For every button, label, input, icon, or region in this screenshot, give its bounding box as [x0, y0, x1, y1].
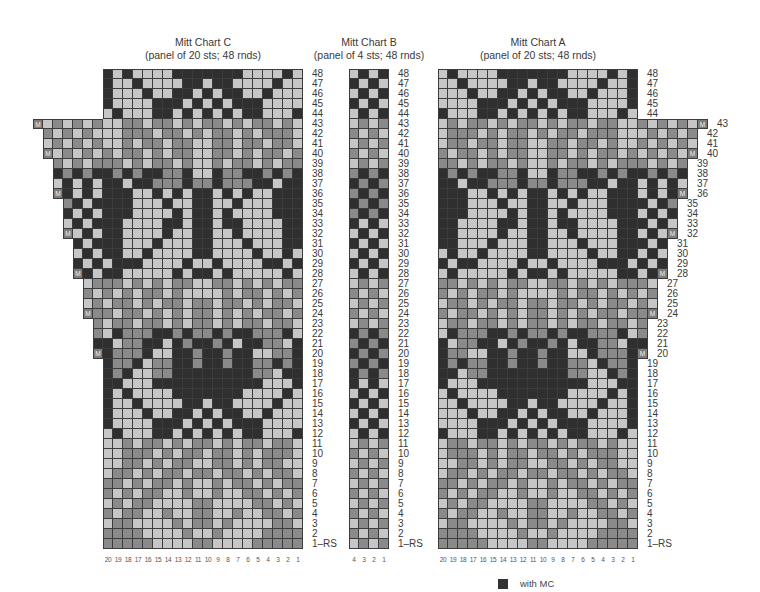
- chart-cell: [438, 399, 448, 409]
- chart-cell: [608, 169, 618, 179]
- chart-cell: [233, 229, 243, 239]
- chart-cell: [598, 129, 608, 139]
- chart-cell: [263, 349, 273, 359]
- chart-cell: [448, 289, 458, 299]
- chart-cell: [143, 69, 153, 79]
- chart-cell: [438, 159, 448, 169]
- chart-cell: [233, 109, 243, 119]
- chart-cell: [548, 359, 558, 369]
- chart-cell: [193, 249, 203, 259]
- chart-cell: [598, 329, 608, 339]
- chart-cell: [558, 189, 568, 199]
- chart-cell: [123, 149, 133, 159]
- chart-cell: [173, 499, 183, 509]
- chart-cell: [548, 279, 558, 289]
- chart-cell: [203, 79, 213, 89]
- chart-cell: [359, 179, 369, 189]
- chart-cell: [568, 419, 578, 429]
- chart-cell: [518, 69, 528, 79]
- chart-cell: [283, 409, 293, 419]
- chart-cell: [223, 489, 233, 499]
- chart-cell: [379, 169, 389, 179]
- chart-cell: [273, 339, 283, 349]
- chart-cell: [173, 119, 183, 129]
- chart-cell: [253, 249, 263, 259]
- chart-cell: [349, 99, 359, 109]
- chart-cell: [608, 489, 618, 499]
- chart-cell: [213, 269, 223, 279]
- chart-cell: [448, 99, 458, 109]
- chart-cell: [273, 379, 283, 389]
- chart-cell: [133, 449, 143, 459]
- chart-cell: [113, 419, 123, 429]
- chart-cell: [273, 529, 283, 539]
- chart-cell: [223, 119, 233, 129]
- chart-cell: [608, 499, 618, 509]
- chart-cell: [253, 459, 263, 469]
- chart-cell: [478, 229, 488, 239]
- chart-cell: [293, 259, 303, 269]
- chart-cell: [578, 229, 588, 239]
- chart-cell: [133, 149, 143, 159]
- chart-cell: [578, 519, 588, 529]
- chart-cell: [233, 269, 243, 279]
- chart-cell: [153, 239, 163, 249]
- chart-cell: [518, 229, 528, 239]
- chart-cell: [233, 389, 243, 399]
- chart-cell: [103, 109, 113, 119]
- chart-cell: [488, 529, 498, 539]
- chart-cell: [153, 289, 163, 299]
- chart-cell: [173, 459, 183, 469]
- chart-cell: [349, 69, 359, 79]
- chart-cell: [379, 309, 389, 319]
- chart-cell: [608, 399, 618, 409]
- chart-cell: [359, 269, 369, 279]
- chart-cell: [438, 379, 448, 389]
- chart-cell: [223, 209, 233, 219]
- chart-cell: [283, 469, 293, 479]
- chart-cell: [518, 179, 528, 189]
- chart-cell: [369, 129, 379, 139]
- chart-cell: [233, 119, 243, 129]
- chart-cell: [448, 319, 458, 329]
- chart-cell: [213, 389, 223, 399]
- chart-cell: [163, 439, 173, 449]
- chart-cell: [518, 189, 528, 199]
- chart-cell: [558, 69, 568, 79]
- chart-cell: [283, 199, 293, 209]
- chart-cell: [193, 289, 203, 299]
- chart-cell: [438, 229, 448, 239]
- chart-cell: [498, 109, 508, 119]
- chart-cell: [349, 159, 359, 169]
- chart-cell: [213, 489, 223, 499]
- chart-cell: [448, 109, 458, 119]
- chart-cell: [578, 309, 588, 319]
- chart-cell: [163, 429, 173, 439]
- chart-cell: [369, 189, 379, 199]
- chart-cell: [73, 139, 83, 149]
- chart-cell: [203, 489, 213, 499]
- chart-cell: [618, 149, 628, 159]
- chart-cell: [369, 519, 379, 529]
- chart-cell: [153, 479, 163, 489]
- chart-cell: [213, 79, 223, 89]
- chart-cell: [153, 179, 163, 189]
- chart-cell: [263, 279, 273, 289]
- chart-cell: [283, 279, 293, 289]
- chart-cell: [133, 499, 143, 509]
- chart-cell: [648, 239, 658, 249]
- chart-cell: [588, 419, 598, 429]
- chart-cell: [608, 219, 618, 229]
- chart-cell: [369, 439, 379, 449]
- chart-cell: [548, 169, 558, 179]
- chart-cell: [648, 179, 658, 189]
- chart-cell: [518, 299, 528, 309]
- chart-cell: [438, 369, 448, 379]
- chart-cell: [508, 359, 518, 369]
- chart-cell: [548, 389, 558, 399]
- chart-cell: [588, 169, 598, 179]
- chart-cell: [163, 359, 173, 369]
- chart-cell: [103, 329, 113, 339]
- chart-cell: [283, 129, 293, 139]
- chart-cell: [273, 89, 283, 99]
